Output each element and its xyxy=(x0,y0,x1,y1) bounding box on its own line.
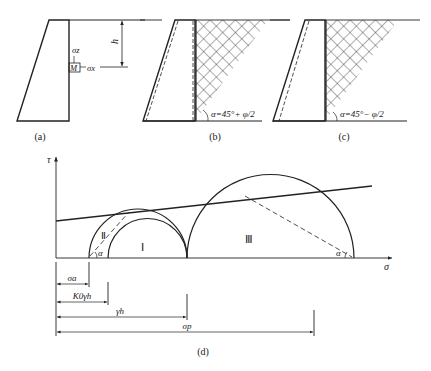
hatched-wedge-c xyxy=(325,20,398,121)
panel-a: h M σz σx (a) xyxy=(17,20,145,143)
earth-pressure-diagram: h M σz σx (a) α=45°+ φ/2 (b) α=45°− φ/2 … xyxy=(0,0,431,371)
angle-arc-active xyxy=(95,252,97,258)
label-circle-II: Ⅱ xyxy=(101,230,106,241)
panel-b: α=45°+ φ/2 (b) xyxy=(140,20,290,143)
angle-label-c: α=45°− φ/2 xyxy=(340,109,384,119)
sigma-z-label: σz xyxy=(72,45,80,55)
label-circle-I: Ⅰ xyxy=(141,241,144,253)
sigma-x-label: σx xyxy=(87,63,95,73)
dim-label-sigma-a: σa xyxy=(68,273,77,283)
retaining-wall-a xyxy=(17,20,69,121)
caption-a: (a) xyxy=(34,131,45,143)
mohr-circle-I xyxy=(108,219,187,258)
angle-label-active: α xyxy=(98,248,103,258)
sigma-axis-label: σ xyxy=(384,261,390,272)
tau-axis-label: τ xyxy=(47,154,51,165)
dim-label-k0-gamma-h: K0γh xyxy=(72,291,92,301)
angle-arc-c xyxy=(333,112,337,121)
dim-label-gamma-h: γh xyxy=(116,306,125,316)
angle-label-passive: α xyxy=(336,248,341,258)
angle-arc-b xyxy=(203,110,208,121)
retaining-wall-c xyxy=(273,20,325,121)
panel-d-mohr-diagram: τ σ α α Ⅰ Ⅱ Ⅲ σa K0γh γh xyxy=(47,154,392,358)
mohr-circle-III xyxy=(187,175,354,259)
caption-d: (d) xyxy=(197,346,209,358)
caption-b: (b) xyxy=(209,131,221,143)
hatched-wedge-b xyxy=(195,20,268,121)
dim-label-sigma-p: σp xyxy=(183,321,192,331)
strength-envelope xyxy=(56,186,372,221)
retaining-wall-b xyxy=(143,20,195,121)
caption-c: (c) xyxy=(338,131,349,143)
depth-label: h xyxy=(109,39,120,44)
point-m-label: M xyxy=(69,63,78,73)
label-circle-III: Ⅲ xyxy=(245,233,253,245)
angle-label-b: α=45°+ φ/2 xyxy=(211,109,255,119)
panel-c: α=45°− φ/2 (c) xyxy=(270,20,420,143)
